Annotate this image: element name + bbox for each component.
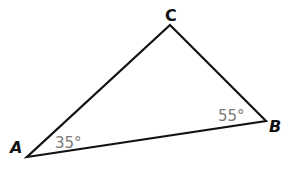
angle-label-b: 55°	[218, 107, 245, 125]
vertex-label-b: B	[269, 117, 281, 136]
vertex-label-c: C	[165, 6, 177, 25]
vertex-label-a: A	[8, 138, 22, 157]
triangle-diagram: C A B 35° 55°	[0, 0, 294, 178]
angle-label-a: 35°	[55, 134, 82, 152]
triangle-svg: C A B 35° 55°	[0, 0, 294, 178]
